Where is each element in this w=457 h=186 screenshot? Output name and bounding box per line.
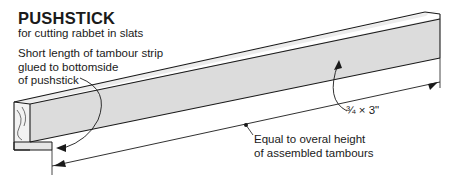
length-arrow-right — [428, 82, 438, 90]
callout-line: Equal to overal height — [254, 133, 374, 147]
callout-line: of assembled tambours — [254, 147, 374, 161]
pushstick-end-face — [14, 104, 30, 142]
callout-line: glued to bottomside — [18, 61, 163, 75]
callout-line: Short length of tambour strip — [18, 47, 163, 61]
strip-arrowhead — [56, 144, 66, 152]
size-callout: ¾ × 3" — [346, 104, 379, 118]
drawing-subtitle: for cutting rabbet in slats — [18, 27, 143, 39]
length-arrow-left — [54, 160, 66, 167]
length-callout: Equal to overal height of assembled tamb… — [254, 133, 374, 160]
drawing-title: PUSHSTICK — [18, 9, 115, 28]
callout-line: of pushstick — [18, 74, 163, 88]
tambour-strip-callout: Short length of tambour strip glued to b… — [18, 47, 163, 88]
tambour-strip — [14, 142, 52, 150]
